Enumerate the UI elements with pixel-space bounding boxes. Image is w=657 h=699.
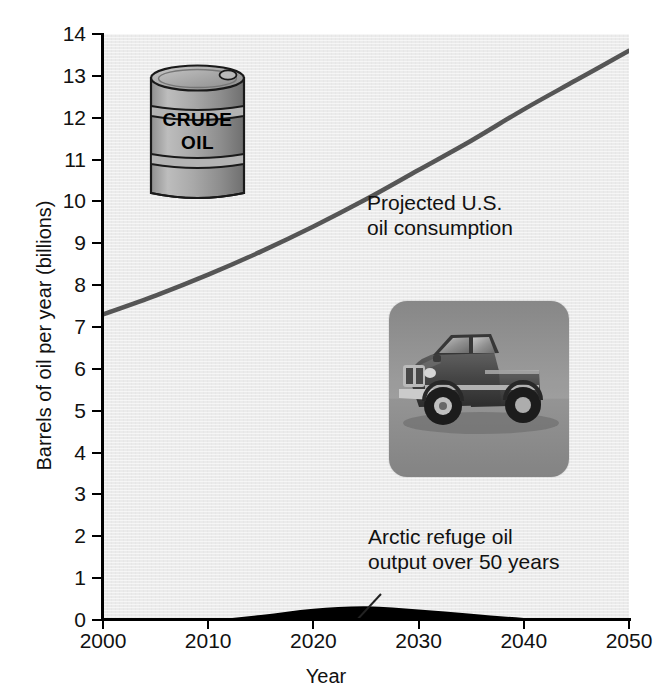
y-tick-2 (92, 535, 101, 537)
y-tick-label-4: 4 (52, 442, 86, 463)
y-tick-label-9: 9 (52, 232, 86, 253)
barrel-label-oil: OIL (145, 132, 250, 154)
y-tick-6 (92, 368, 101, 370)
crude-oil-barrel-illustration: CRUDE OIL (145, 62, 250, 207)
x-tick-label-2040: 2040 (484, 630, 564, 651)
annotation-projected-consumption: Projected U.S. oil consumption (367, 190, 513, 240)
pickup-truck-photo (389, 301, 569, 477)
x-tick-2050 (628, 620, 630, 629)
y-tick-label-13: 13 (52, 65, 86, 86)
x-tick-2000 (102, 620, 104, 629)
y-tick-11 (92, 159, 101, 161)
y-tick-3 (92, 493, 101, 495)
y-tick-label-0: 0 (52, 609, 86, 630)
x-tick-2010 (207, 620, 209, 629)
y-tick-5 (92, 410, 101, 412)
x-tick-label-2010: 2010 (168, 630, 248, 651)
y-tick-13 (92, 75, 101, 77)
annotation-consumption-line1: Projected U.S. (367, 190, 513, 215)
y-tick-12 (92, 117, 101, 119)
y-axis-title: Barrels of oil per year (billions) (33, 146, 56, 526)
y-tick-7 (92, 326, 101, 328)
y-tick-4 (92, 452, 101, 454)
y-tick-label-8: 8 (52, 274, 86, 295)
x-tick-label-2020: 2020 (273, 630, 353, 651)
y-axis-line (101, 33, 104, 621)
x-tick-2030 (418, 620, 420, 629)
x-tick-label-2030: 2030 (379, 630, 459, 651)
annotation-arctic-line2: output over 50 years (368, 549, 559, 574)
annotation-arctic-refuge: Arctic refuge oil output over 50 years (368, 524, 559, 574)
y-tick-10 (92, 200, 101, 202)
y-tick-label-1: 1 (52, 567, 86, 588)
x-tick-label-2050: 2050 (589, 630, 657, 651)
x-tick-2020 (312, 620, 314, 629)
barrel-label-crude: CRUDE (145, 109, 250, 131)
y-tick-label-11: 11 (52, 149, 86, 170)
y-tick-1 (92, 577, 101, 579)
y-tick-label-7: 7 (52, 316, 86, 337)
y-tick-14 (92, 33, 101, 35)
y-tick-label-10: 10 (52, 190, 86, 211)
annotation-arctic-line1: Arctic refuge oil (368, 524, 559, 549)
x-axis-line (101, 618, 631, 621)
y-tick-9 (92, 242, 101, 244)
y-tick-0 (92, 619, 101, 621)
x-tick-2040 (523, 620, 525, 629)
annotation-consumption-line2: oil consumption (367, 215, 513, 240)
y-tick-label-14: 14 (52, 23, 86, 44)
y-tick-8 (92, 284, 101, 286)
y-tick-label-3: 3 (52, 483, 86, 504)
x-tick-label-2000: 2000 (63, 630, 143, 651)
pickup-truck-icon (389, 301, 569, 477)
y-tick-label-6: 6 (52, 358, 86, 379)
y-tick-label-5: 5 (52, 400, 86, 421)
y-tick-label-12: 12 (52, 107, 86, 128)
x-axis-title: Year (0, 665, 652, 688)
y-tick-label-2: 2 (52, 525, 86, 546)
